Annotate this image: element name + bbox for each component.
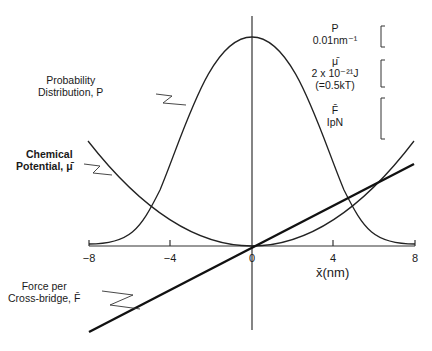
scale-f: F̄ IpN	[295, 104, 375, 128]
prob-label-line1: Probability	[38, 74, 103, 86]
force-leader-icon	[102, 291, 140, 309]
tick-label: 4	[330, 252, 336, 264]
tick-label: −4	[164, 252, 177, 264]
probability-label: Probability Distribution, P	[38, 74, 103, 98]
force-label-line1: Force per	[8, 280, 80, 292]
scale-p-value: 0.01nm⁻¹	[295, 34, 375, 46]
chemical-potential-curve	[88, 141, 414, 246]
scale-mu-symbol: μ̄	[295, 55, 375, 67]
scale-brackets	[381, 26, 385, 139]
scale-f-symbol: F̄	[295, 104, 375, 116]
tick-label: −8	[83, 252, 96, 264]
chem-label-line2: Potential, μ̄	[16, 160, 73, 172]
prob-leader-icon	[156, 94, 186, 105]
x-axis-label: x̄(nm)	[316, 267, 349, 279]
tick-label: 0	[249, 252, 255, 264]
chem-label-line1: Chemical	[16, 148, 73, 160]
force-label: Force per Cross-bridge, F̄	[8, 280, 80, 304]
scale-mu-value: 2 x 10⁻²¹J	[295, 67, 375, 79]
scale-mu: μ̄ 2 x 10⁻²¹J (=0.5kT)	[295, 55, 375, 91]
scale-mu-note: (=0.5kT)	[295, 79, 375, 91]
scale-p: P 0.01nm⁻¹	[295, 22, 375, 46]
force-label-line2: Cross-bridge, F̄	[8, 292, 80, 304]
tick-label: 8	[412, 252, 418, 264]
scale-f-value: IpN	[295, 116, 375, 128]
scale-p-symbol: P	[295, 22, 375, 34]
prob-label-line2: Distribution, P	[38, 86, 103, 98]
chemical-potential-label: Chemical Potential, μ̄	[16, 148, 73, 172]
